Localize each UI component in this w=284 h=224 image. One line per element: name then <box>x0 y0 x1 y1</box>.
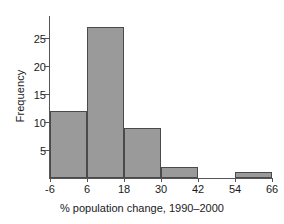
x-tick-mark-30 <box>161 178 162 182</box>
bar-bin-30-42 <box>161 167 198 178</box>
plot-area: -6 6 18 30 42 54 66 <box>50 16 272 178</box>
x-axis-title: % population change, 1990–2000 <box>0 202 284 214</box>
y-axis-tick-labels: 25 20 15 10 5 <box>24 16 48 178</box>
bar-bin-18-30 <box>124 128 161 178</box>
histogram-figure: 25 20 15 10 5 Frequency -6 6 18 30 42 54 <box>0 0 284 224</box>
x-tick-label-6: 6 <box>72 184 102 195</box>
y-tick-mark-20 <box>44 66 50 67</box>
x-tick-mark-66 <box>272 178 273 182</box>
x-tick-label-54: 54 <box>220 184 250 195</box>
x-tick-mark-18 <box>124 178 125 182</box>
bar-bin-54-66 <box>235 172 272 178</box>
x-tick-mark-54 <box>235 178 236 182</box>
y-tick-label-5: 5 <box>22 146 46 157</box>
x-tick-mark--6 <box>50 178 51 182</box>
x-tick-label-18: 18 <box>109 184 139 195</box>
x-tick-mark-6 <box>87 178 88 182</box>
bar-bin--6-6 <box>50 111 87 178</box>
y-tick-mark-25 <box>44 38 50 39</box>
x-tick-label-42: 42 <box>183 184 213 195</box>
x-tick-mark-42 <box>198 178 199 182</box>
y-axis-title: Frequency <box>14 70 26 123</box>
x-tick-label-66: 66 <box>257 184 284 195</box>
x-tick-label--6: -6 <box>35 184 65 195</box>
y-tick-mark-15 <box>44 94 50 95</box>
bar-bin-6-18 <box>87 27 124 178</box>
y-tick-label-25: 25 <box>22 34 46 45</box>
x-tick-label-30: 30 <box>146 184 176 195</box>
